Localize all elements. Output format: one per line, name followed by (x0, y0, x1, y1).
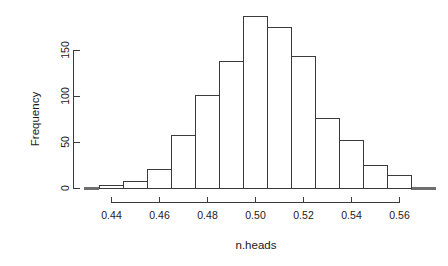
y-tick-label-100: 100 (59, 87, 71, 105)
x-tick-label: 0.54 (341, 209, 362, 221)
histogram-bar (268, 28, 292, 189)
x-tick-label: 0.52 (293, 209, 314, 221)
histogram-canvas: 150 100 50 0 Frequency 0.440.460.480.500… (0, 0, 448, 266)
y-tick-label-0: 0 (59, 185, 71, 191)
histogram-bar (196, 96, 220, 189)
x-tick-label: 0.48 (197, 209, 218, 221)
x-tick-labels: 0.440.460.480.500.520.540.56 (101, 209, 410, 221)
histogram-bar (340, 141, 364, 189)
y-axis (74, 51, 80, 189)
y-tick-label-150: 150 (59, 41, 71, 59)
histogram-bar (124, 181, 148, 188)
histogram-plot: 150 100 50 0 Frequency 0.440.460.480.500… (0, 0, 448, 266)
histogram-bar (100, 186, 124, 189)
histogram-bar (172, 135, 196, 188)
y-axis-title: Frequency (29, 92, 41, 147)
x-axis (112, 197, 400, 203)
x-axis-title: n.heads (236, 239, 277, 251)
histogram-bar (244, 16, 268, 188)
histogram-bar (364, 166, 388, 189)
histogram-bar (148, 169, 172, 188)
y-tick-label-50: 50 (59, 136, 71, 148)
y-tick-labels: 150 100 50 0 (59, 41, 71, 191)
histogram-bar (388, 176, 412, 189)
x-tick-label: 0.44 (101, 209, 122, 221)
histogram-bars (100, 16, 412, 188)
x-tick-label: 0.46 (149, 209, 170, 221)
y-axis-line (74, 51, 80, 189)
x-tick-label: 0.50 (245, 209, 266, 221)
x-tick-label: 0.56 (389, 209, 410, 221)
histogram-bar (316, 119, 340, 189)
histogram-bar (220, 62, 244, 189)
histogram-bar (292, 57, 316, 189)
